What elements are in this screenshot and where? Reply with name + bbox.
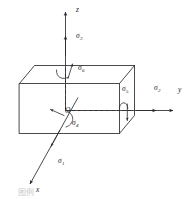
figure-canvas: z y x O σ3 σ6 σ5 σ2 <box>0 0 191 199</box>
stress-label-sigma2: σ2 <box>154 83 161 93</box>
caption-text: 图例 <box>18 186 35 197</box>
sigma2-subscript: 2 <box>158 88 161 93</box>
sigma1-arrow-shaft <box>51 130 60 147</box>
box-right-face <box>120 66 135 134</box>
sigma4-arrow-shaft <box>51 110 65 116</box>
caption-strip: 图例 <box>0 186 191 199</box>
sigma6-subscript: 6 <box>82 68 85 73</box>
stress-label-sigma4: σ4 <box>72 118 79 128</box>
sigma4-subscript: 4 <box>76 123 79 128</box>
sigma6-curve <box>56 70 68 78</box>
sigma6-arrow-shaft <box>68 64 73 79</box>
sigma3-subscript: 3 <box>80 36 83 41</box>
axis-label-z: z <box>75 5 79 14</box>
stress-label-sigma1: σ1 <box>58 156 65 166</box>
sigma5-curve <box>119 103 127 109</box>
stress-label-sigma6: σ6 <box>78 63 85 73</box>
stress-label-sigma3: σ3 <box>76 31 83 41</box>
svg-text:σ2: σ2 <box>154 83 161 93</box>
stress-curve-sigma6 <box>56 64 72 79</box>
stress-arrow-sigma1 <box>51 130 60 147</box>
sigma1-subscript: 1 <box>62 161 65 166</box>
origin-label: O <box>65 106 71 115</box>
svg-text:σ5: σ5 <box>122 84 129 94</box>
stress-curve-sigma5 <box>119 103 127 121</box>
sigma5-subscript: 5 <box>126 89 129 94</box>
axis-labels: z y x <box>35 5 182 194</box>
stress-element-figure: z y x O σ3 σ6 σ5 σ2 <box>0 0 191 199</box>
svg-text:σ6: σ6 <box>78 63 85 73</box>
stress-label-sigma5: σ5 <box>122 84 129 94</box>
svg-text:σ4: σ4 <box>72 118 79 128</box>
svg-text:σ3: σ3 <box>76 31 83 41</box>
box-top-face <box>20 66 135 84</box>
svg-text:σ1: σ1 <box>58 156 65 166</box>
axis-label-y: y <box>177 85 182 94</box>
